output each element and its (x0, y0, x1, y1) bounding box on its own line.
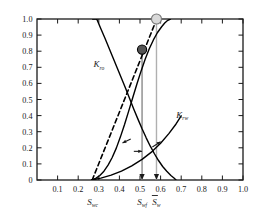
axis-annotation-swf: Swf (137, 197, 148, 208)
x-tick-label-7: 0.8 (197, 185, 207, 194)
x-tick-label-5: 0.6 (155, 185, 165, 194)
y-tick-label-7: 0.7 (22, 63, 32, 72)
x-tick-label-0: 0.1 (52, 185, 62, 194)
chart-figure: 0.10.20.30.40.50.60.70.80.91.000.10.20.3… (0, 0, 253, 218)
y-tick-label-3: 0.3 (22, 128, 32, 137)
y-tick-label-5: 0.5 (22, 96, 32, 105)
y-tick-label-2: 0.2 (22, 144, 32, 153)
marker-breakthrough-point[interactable] (151, 14, 161, 24)
y-tick-label-10: 1.0 (22, 15, 32, 24)
relative-permeability-chart: 0.10.20.30.40.50.60.70.80.91.000.10.20.3… (0, 0, 253, 218)
y-tick-label-9: 0.9 (22, 31, 32, 40)
y-tick-label-1: 0.1 (22, 160, 32, 169)
x-tick-label-3: 0.4 (114, 185, 124, 194)
x-tick-label-2: 0.3 (94, 185, 104, 194)
y-tick-label-8: 0.8 (22, 47, 32, 56)
y-tick-label-4: 0.4 (22, 112, 32, 121)
axis-annotation-swc: Swc (87, 197, 98, 208)
y-tick-label-0: 0 (28, 176, 32, 185)
marker-front-saturation-point[interactable] (137, 45, 146, 54)
x-tick-label-1: 0.2 (73, 185, 83, 194)
x-tick-label-4: 0.5 (135, 185, 145, 194)
y-tick-label-6: 0.6 (22, 79, 32, 88)
axis-annotation-sw: Sw (152, 197, 161, 208)
plot-frame (37, 19, 243, 180)
x-tick-label-8: 0.9 (217, 185, 227, 194)
x-tick-label-6: 0.7 (176, 185, 186, 194)
x-tick-label-9: 1.0 (238, 185, 248, 194)
